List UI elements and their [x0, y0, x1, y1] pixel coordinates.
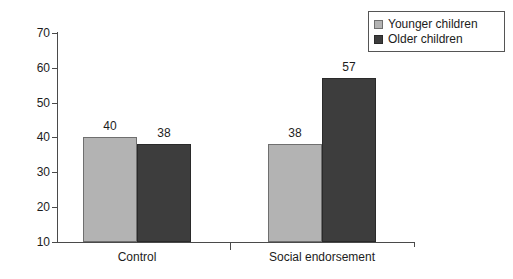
y-tick-label-40-wrap: 40 — [16, 131, 50, 143]
bar-social-endorsement-older-children[interactable] — [322, 78, 376, 242]
legend-label-older-children: Older children — [388, 33, 463, 46]
younger-swatch-icon — [374, 20, 383, 29]
y-tick-label-10: 10 — [22, 236, 50, 248]
y-tick-label-50: 50 — [22, 97, 50, 109]
y-tick-label-40: 40 — [22, 131, 50, 143]
y-tick-60 — [52, 68, 58, 69]
y-tick-label-60: 60 — [22, 62, 50, 74]
y-tick-label-30: 30 — [22, 166, 50, 178]
y-tick-label-70-wrap: 70 — [16, 27, 50, 39]
x-axis-end-tick — [414, 242, 415, 247]
y-tick-label-10-wrap: 10 — [16, 236, 50, 248]
y-tick-label-20: 20 — [22, 201, 50, 213]
legend-entry-younger-children[interactable]: Younger children — [374, 17, 499, 31]
bar-value-label-social-younger: 38 — [275, 127, 315, 139]
y-tick-50 — [52, 103, 58, 104]
bar-control-older-children[interactable] — [137, 144, 191, 242]
y-tick-label-70: 70 — [22, 27, 50, 39]
legend: Younger children Older children — [368, 11, 505, 52]
y-tick-40 — [52, 137, 58, 138]
y-tick-label-20-wrap: 20 — [16, 201, 50, 213]
older-swatch-icon — [374, 35, 383, 44]
bar-chart: 70 60 50 40 30 20 10 40 38 — [0, 0, 513, 279]
plot-area: 70 60 50 40 30 20 10 40 38 — [0, 0, 513, 279]
bar-value-label-social-older: 57 — [329, 61, 369, 73]
y-tick-30 — [52, 172, 58, 173]
y-tick-10 — [52, 242, 58, 243]
bar-control-younger-children[interactable] — [83, 137, 137, 242]
x-category-label-social-endorsement: Social endorsement — [262, 250, 382, 264]
y-tick-20 — [52, 207, 58, 208]
y-tick-label-60-wrap: 60 — [16, 62, 50, 74]
bar-social-endorsement-younger-children[interactable] — [268, 144, 322, 242]
y-tick-70 — [52, 33, 58, 34]
x-axis-line — [57, 242, 415, 243]
x-category-label-control: Control — [97, 250, 177, 264]
legend-entry-older-children[interactable]: Older children — [374, 32, 499, 46]
x-axis-category-separator-tick — [230, 243, 231, 250]
bar-value-label-control-older: 38 — [144, 127, 184, 139]
legend-label-younger-children: Younger children — [388, 18, 478, 31]
y-tick-label-30-wrap: 30 — [16, 166, 50, 178]
bar-value-label-control-younger: 40 — [90, 120, 130, 132]
y-tick-label-50-wrap: 50 — [16, 97, 50, 109]
